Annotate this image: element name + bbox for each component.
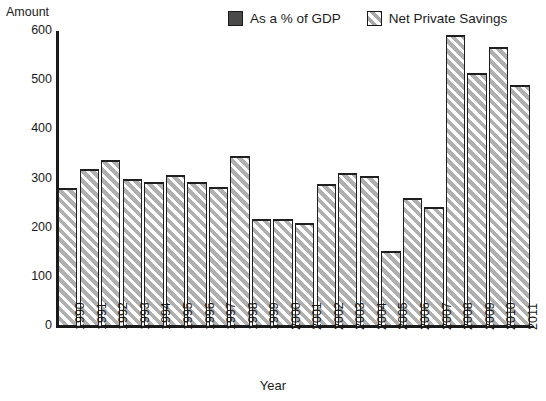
x-tick-label: 2002: [333, 302, 346, 330]
bar-chart: As a % of GDP Net Private Savings Amount…: [0, 0, 546, 401]
plot-area: 6005004003002001000 19901991199219931994…: [0, 0, 546, 401]
x-tick-label: 2004: [376, 302, 389, 330]
x-tick-label: 2008: [462, 302, 475, 330]
x-tick-label: 1990: [74, 302, 87, 330]
x-tick-label: 1997: [225, 302, 238, 330]
y-tick-label: 200: [6, 221, 52, 234]
bar: [489, 47, 508, 326]
bar: [467, 73, 486, 326]
bar-slot: [381, 31, 403, 326]
x-tick-label: 1993: [139, 302, 152, 330]
x-tick-label: 2005: [397, 302, 410, 330]
y-tick-label: 300: [6, 172, 52, 185]
bar-slot: [273, 31, 295, 326]
x-tick-label: 2000: [290, 302, 303, 330]
bar-slot: [80, 31, 102, 326]
x-tick-label: 1992: [117, 302, 130, 330]
bar: [446, 35, 465, 326]
x-tick-label: 2011: [527, 303, 540, 330]
bar-slot: [467, 31, 489, 326]
bar-slot: [166, 31, 188, 326]
y-tick-label: 0: [6, 319, 52, 332]
x-tick-label: 2001: [311, 302, 324, 330]
bar-slot: [424, 31, 446, 326]
x-tick-label: 2003: [354, 302, 367, 330]
x-tick-label: 1998: [247, 302, 260, 330]
bar-slot: [510, 31, 532, 326]
bar-slot: [252, 31, 274, 326]
bar-slot: [58, 31, 80, 326]
y-axis-tick-labels: 6005004003002001000: [0, 0, 52, 401]
x-tick-label: 1995: [182, 302, 195, 330]
bar-slot: [123, 31, 145, 326]
x-tick-label: 1996: [204, 302, 217, 330]
x-tick-label: 1991: [96, 302, 109, 330]
bar-slot: [230, 31, 252, 326]
bar-slot: [403, 31, 425, 326]
x-axis-tick-labels: 1990199119921993199419951996199719981999…: [58, 330, 532, 378]
bar: [510, 85, 529, 326]
bar-slot: [209, 31, 231, 326]
y-tick-label: 400: [6, 122, 52, 135]
bar-group: [58, 31, 532, 326]
bar-slot: [338, 31, 360, 326]
y-tick-label: 500: [6, 73, 52, 86]
bar-slot: [101, 31, 123, 326]
bar-slot: [317, 31, 339, 326]
bar-slot: [489, 31, 511, 326]
bar-slot: [295, 31, 317, 326]
bar: [230, 156, 249, 326]
x-tick-label: 2007: [441, 302, 454, 330]
x-tick-label: 1999: [268, 302, 281, 330]
bar-slot: [446, 31, 468, 326]
x-tick-label: 2006: [419, 302, 432, 330]
x-tick-label: 2010: [505, 302, 518, 330]
y-tick-label: 100: [6, 270, 52, 283]
x-tick-label: 2009: [484, 302, 497, 330]
bar-slot: [144, 31, 166, 326]
bar-slot: [187, 31, 209, 326]
y-tick-label: 600: [6, 24, 52, 37]
x-tick-label: 1994: [160, 302, 173, 330]
bar-slot: [360, 31, 382, 326]
x-axis-title: Year: [0, 378, 546, 393]
